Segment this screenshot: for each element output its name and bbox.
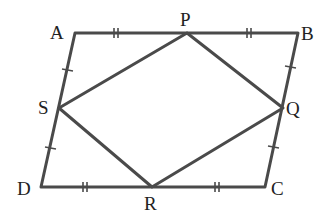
single-tick-as xyxy=(62,69,73,71)
single-tick-bq xyxy=(285,66,296,68)
label-q: Q xyxy=(286,98,300,119)
label-a: A xyxy=(50,22,64,43)
inner-quadrilateral-pqrs xyxy=(59,33,283,187)
label-s: S xyxy=(38,97,49,118)
label-r: R xyxy=(144,193,157,214)
single-tick-qc xyxy=(268,146,279,148)
label-c: C xyxy=(271,178,284,199)
label-d: D xyxy=(17,178,31,199)
single-tick-sd xyxy=(45,147,56,149)
parallelogram-diagram: A B P S Q D R C xyxy=(0,0,323,217)
label-b: B xyxy=(301,23,314,44)
outer-parallelogram-abcd xyxy=(41,33,298,187)
label-p: P xyxy=(180,9,191,30)
